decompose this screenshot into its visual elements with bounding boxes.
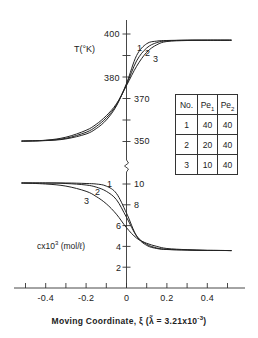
y-tick-label: 6 — [116, 221, 121, 231]
table-header-pe1: Pe1 — [198, 95, 218, 115]
table-row: 1 40 40 — [176, 115, 238, 135]
t-curve-label-3: 3 — [153, 54, 158, 64]
y-tick-label: 400 — [104, 29, 120, 39]
pe2-text: Pe — [221, 100, 231, 110]
y-tick-label: 380 — [104, 73, 120, 83]
x-tick-label: 0.2 — [160, 293, 173, 303]
x-tick-label: -0.2 — [78, 293, 94, 303]
table-cell: 2 — [176, 135, 198, 155]
pe1-sub: 1 — [211, 105, 214, 111]
x-axis-title-close: ) — [203, 316, 206, 326]
table-header-row: No. Pe1 Pe2 — [176, 95, 238, 115]
c-curve-label-3: 3 — [84, 196, 89, 206]
c-curve-label-2: 2 — [95, 187, 100, 197]
axis-break-icon — [125, 160, 129, 172]
table-header-pe2: Pe2 — [218, 95, 238, 115]
t-curve-label-1: 1 — [137, 43, 142, 53]
c-axis-title: cx103 (mol/ℓ) — [37, 241, 85, 251]
table-cell: 1 — [176, 115, 198, 135]
table-cell: 10 — [198, 155, 218, 175]
table-header-no: No. — [176, 95, 198, 115]
y-tick-label: 10 — [134, 179, 144, 189]
peclet-parameter-table: No. Pe1 Pe2 1 40 40 2 20 40 3 10 40 — [175, 94, 238, 175]
table-cell: 40 — [218, 135, 238, 155]
pe2-sub: 2 — [231, 105, 234, 111]
t-axis-title-text: T(°K) — [74, 44, 95, 54]
table-cell: 40 — [218, 155, 238, 175]
t-curve-label-2: 2 — [145, 48, 150, 58]
y-tick-label: 4 — [116, 242, 121, 252]
x-axis-title-main: Moving Coordinate, ξ ( — [52, 316, 149, 326]
c-axis-title-main: cx10 — [37, 241, 55, 251]
y-tick-label: 350 — [134, 136, 150, 146]
y-tick-label: 2 — [116, 263, 121, 273]
table-cell: 40 — [198, 115, 218, 135]
table-row: 3 10 40 — [176, 155, 238, 175]
x-tick-label: -0.4 — [38, 293, 54, 303]
y-tick-label: 370 — [134, 94, 150, 104]
x-tick-label: 0 — [124, 293, 129, 303]
table-cell: 3 — [176, 155, 198, 175]
t-axis-title: T(°K) — [74, 44, 95, 54]
table-cell: 20 — [198, 135, 218, 155]
x-axis-title: Moving Coordinate, ξ (λ̃ = 3.21x10-3) — [0, 316, 258, 326]
table-row: 2 20 40 — [176, 135, 238, 155]
c-axis-title-unit: (mol/ℓ) — [58, 241, 85, 251]
c-curve-label-1: 1 — [107, 179, 112, 189]
x-axis-title-eq: = 3.21x10 — [154, 316, 197, 326]
y-tick-label: 8 — [134, 200, 139, 210]
x-tick-label: 0.4 — [201, 293, 214, 303]
pe1-text: Pe — [201, 100, 211, 110]
table-cell: 40 — [218, 115, 238, 135]
